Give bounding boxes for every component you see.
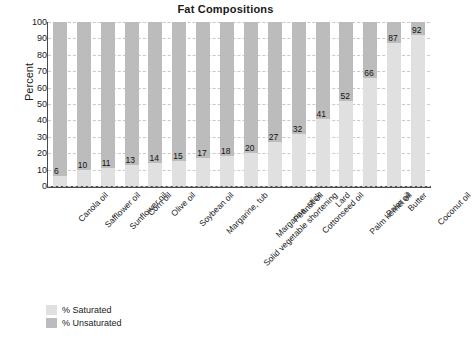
bar-value-label: 14 bbox=[149, 153, 158, 163]
x-axis-tick-label: Olive oil bbox=[169, 190, 197, 218]
y-axis-tick-label: 50 bbox=[21, 99, 47, 109]
bar-segment-saturated[interactable] bbox=[292, 134, 306, 186]
bar-segment-saturated[interactable] bbox=[172, 161, 186, 186]
bar-group[interactable] bbox=[363, 22, 377, 186]
x-axis-tick-label: Coconut oil bbox=[436, 190, 473, 227]
bar-group[interactable] bbox=[220, 22, 234, 186]
bar-segment-saturated[interactable] bbox=[196, 158, 210, 186]
legend-label: % Saturated bbox=[62, 305, 112, 315]
legend-item[interactable]: % Unsaturated bbox=[46, 316, 122, 329]
bar-segment-unsaturated[interactable] bbox=[101, 22, 115, 168]
bar-value-label: 66 bbox=[364, 68, 373, 78]
bar-value-label: 52 bbox=[340, 91, 349, 101]
y-axis-tick-label: 40 bbox=[21, 115, 47, 125]
bar-segment-unsaturated[interactable] bbox=[77, 22, 91, 170]
bar-value-label: 11 bbox=[102, 158, 111, 168]
x-axis-labels: Canola oilSafflower oilSunflower oilCorn… bbox=[48, 188, 430, 284]
bar-segment-saturated[interactable] bbox=[53, 176, 67, 186]
bar-value-label: 92 bbox=[412, 25, 421, 35]
legend-label: % Unsaturated bbox=[62, 318, 122, 328]
legend-swatch bbox=[46, 305, 57, 315]
gridline bbox=[48, 186, 430, 187]
bar-value-label: 18 bbox=[221, 146, 230, 156]
bar-segment-saturated[interactable] bbox=[125, 165, 139, 186]
y-axis-tick-label: 10 bbox=[21, 165, 47, 175]
bar-segment-saturated[interactable] bbox=[148, 163, 162, 186]
bar-segment-saturated[interactable] bbox=[363, 78, 377, 186]
bar-group[interactable] bbox=[244, 22, 258, 186]
chart-legend: % Saturated% Unsaturated bbox=[46, 303, 122, 329]
bar-segment-saturated[interactable] bbox=[339, 101, 353, 186]
bar-segment-saturated[interactable] bbox=[101, 168, 115, 186]
bar-group[interactable] bbox=[292, 22, 306, 186]
bar-segment-unsaturated[interactable] bbox=[53, 22, 67, 176]
bar-segment-unsaturated[interactable] bbox=[292, 22, 306, 134]
bar-value-label: 20 bbox=[245, 143, 254, 153]
bar-group[interactable] bbox=[339, 22, 353, 186]
bar-segment-saturated[interactable] bbox=[244, 153, 258, 186]
bar-value-label: 17 bbox=[197, 148, 206, 158]
bar-group[interactable] bbox=[411, 22, 425, 186]
bar-segment-unsaturated[interactable] bbox=[244, 22, 258, 153]
bar-segment-saturated[interactable] bbox=[387, 43, 401, 186]
bar-value-label: 13 bbox=[126, 155, 135, 165]
bar-segment-unsaturated[interactable] bbox=[339, 22, 353, 101]
bar-group[interactable] bbox=[172, 22, 186, 186]
bar-group[interactable] bbox=[53, 22, 67, 186]
bar-segment-unsaturated[interactable] bbox=[268, 22, 282, 142]
bar-value-label: 41 bbox=[317, 109, 326, 119]
y-axis-tick-label: 70 bbox=[21, 66, 47, 76]
bar-value-label: 32 bbox=[293, 124, 302, 134]
bar-segment-unsaturated[interactable] bbox=[316, 22, 330, 119]
y-axis-tick-label: 30 bbox=[21, 132, 47, 142]
y-axis-tick-label: 80 bbox=[21, 50, 47, 60]
bar-segment-unsaturated[interactable] bbox=[125, 22, 139, 165]
bar-group[interactable] bbox=[268, 22, 282, 186]
bar-segment-unsaturated[interactable] bbox=[220, 22, 234, 156]
bar-value-label: 6 bbox=[54, 166, 59, 176]
y-axis-tick-label: 100 bbox=[21, 17, 47, 27]
bar-value-label: 10 bbox=[78, 160, 87, 170]
legend-swatch bbox=[46, 318, 57, 328]
bar-segment-saturated[interactable] bbox=[77, 170, 91, 186]
y-axis-ticks: 0102030405060708090100 bbox=[21, 22, 47, 186]
y-axis-tick-label: 0 bbox=[21, 181, 47, 191]
bar-segment-unsaturated[interactable] bbox=[196, 22, 210, 158]
bar-segment-saturated[interactable] bbox=[268, 142, 282, 186]
bar-segment-saturated[interactable] bbox=[316, 119, 330, 186]
y-axis-tick-label: 90 bbox=[21, 33, 47, 43]
bar-value-label: 15 bbox=[173, 151, 182, 161]
bar-group[interactable] bbox=[316, 22, 330, 186]
bar-group[interactable] bbox=[196, 22, 210, 186]
bar-value-label: 87 bbox=[388, 33, 397, 43]
bar-segment-saturated[interactable] bbox=[411, 35, 425, 186]
legend-item[interactable]: % Saturated bbox=[46, 303, 122, 316]
y-axis-tick-label: 60 bbox=[21, 83, 47, 93]
bar-value-label: 27 bbox=[269, 132, 278, 142]
bar-segment-unsaturated[interactable] bbox=[148, 22, 162, 163]
bar-group[interactable] bbox=[387, 22, 401, 186]
bar-segment-saturated[interactable] bbox=[220, 156, 234, 186]
plot-area: 6101113141517182027324152668792 bbox=[48, 22, 430, 186]
y-axis-tick-label: 20 bbox=[21, 148, 47, 158]
bar-segment-unsaturated[interactable] bbox=[172, 22, 186, 161]
chart-title: Fat Compositions bbox=[0, 3, 451, 15]
